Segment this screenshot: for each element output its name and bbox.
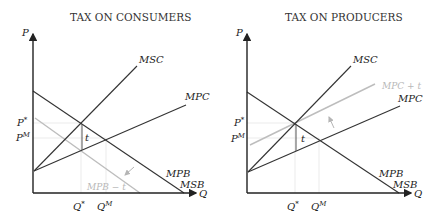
msc-curve: [34, 66, 137, 171]
panel-title: TAX ON PRODUCERS: [285, 11, 403, 23]
mpc-label: MPC: [184, 91, 210, 102]
panel-tax-on-consumers: TAX ON CONSUMERS t P Q MSC MPC MPB MSB M…: [15, 11, 210, 212]
q-star-label: Q*: [73, 200, 85, 212]
shift-arrow-icon: [329, 117, 334, 128]
mpb-msb-curve: [33, 91, 184, 193]
msc-label: MSC: [352, 54, 378, 65]
q-star-label: Q*: [287, 200, 299, 212]
y-axis-label: P: [235, 27, 243, 38]
panel-title: TAX ON CONSUMERS: [70, 11, 191, 23]
mpb-label: MPB: [165, 168, 190, 179]
tax-label: t: [85, 132, 90, 143]
y-axis-label: P: [21, 27, 29, 38]
q-market-label: QM: [311, 200, 327, 212]
tax-label: t: [301, 133, 306, 144]
mpb-label: MPB: [378, 168, 403, 179]
panel-tax-on-producers: TAX ON PRODUCERS t P Q MSC MPC + t MPC M…: [230, 11, 423, 212]
p-market-label: PM: [230, 132, 246, 144]
mpc-label: MPC: [397, 93, 423, 104]
msc-label: MSC: [138, 54, 164, 65]
shift-arrow-icon: [125, 167, 134, 175]
p-market-label: PM: [15, 131, 31, 143]
msc-curve: [248, 66, 351, 172]
msb-label: MSB: [392, 179, 417, 190]
mpb-minus-t-label: MPB − t: [86, 182, 126, 192]
p-star-label: P*: [16, 116, 28, 128]
mpc-curve: [248, 106, 400, 172]
p-star-label: P*: [233, 116, 245, 128]
msb-label: MSB: [179, 179, 204, 190]
q-market-label: QM: [97, 200, 113, 212]
mpb-msb-curve: [247, 92, 399, 193]
mpc-plus-t-label: MPC + t: [381, 81, 421, 91]
